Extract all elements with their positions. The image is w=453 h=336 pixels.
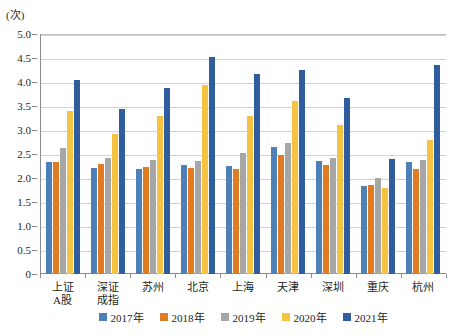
x-axis-tick-mark xyxy=(85,274,86,278)
y-axis-tick-label: 3.5 xyxy=(17,100,31,112)
bar xyxy=(368,185,374,274)
y-axis-tick-label: 0.5 xyxy=(17,244,31,256)
bar xyxy=(292,101,298,274)
y-axis-tick-label: 5.0 xyxy=(17,28,31,40)
x-axis-tick-mark xyxy=(356,274,357,278)
y-axis-tick-mark xyxy=(32,58,37,59)
legend-label: 2019年 xyxy=(233,309,266,325)
y-axis-tick-label: 1.5 xyxy=(17,196,31,208)
bar-groups xyxy=(40,34,446,274)
bar xyxy=(375,178,381,274)
bar-group xyxy=(401,34,446,274)
y-axis-tick-label: 4.0 xyxy=(17,76,31,88)
legend-item[interactable]: 2019年 xyxy=(221,309,266,325)
legend-item[interactable]: 2018年 xyxy=(160,309,205,325)
bar xyxy=(406,162,412,274)
x-axis-tick-mark xyxy=(266,274,267,278)
y-axis-tick-mark xyxy=(32,34,37,35)
legend-item[interactable]: 2020年 xyxy=(282,309,327,325)
bar xyxy=(60,148,66,274)
bar xyxy=(136,169,142,274)
x-axis-category-label-line: 重庆 xyxy=(356,281,401,294)
legend-item[interactable]: 2021年 xyxy=(343,309,388,325)
bar xyxy=(427,140,433,274)
x-axis-category-label-line: 苏州 xyxy=(130,281,175,294)
bar xyxy=(434,65,440,274)
bar-group xyxy=(130,34,175,274)
bar xyxy=(46,162,52,274)
bar xyxy=(67,111,73,274)
bar xyxy=(202,85,208,274)
x-axis-category-label-line: 杭州 xyxy=(401,281,446,294)
x-axis-category-label-line: 天津 xyxy=(266,281,311,294)
chart-legend: 2017年2018年2019年2020年2021年 xyxy=(40,308,446,326)
bar-group xyxy=(311,34,356,274)
bar xyxy=(195,161,201,274)
y-axis-tick-label: 2.5 xyxy=(17,148,31,160)
legend-label: 2020年 xyxy=(294,309,327,325)
y-axis-tick-mark xyxy=(32,130,37,131)
y-axis-tick-label: 0 xyxy=(26,268,32,280)
y-axis-tick-mark xyxy=(32,178,37,179)
bar xyxy=(164,88,170,274)
legend-label: 2021年 xyxy=(355,309,388,325)
y-axis-tick-mark xyxy=(32,274,37,275)
x-axis-tick-mark xyxy=(175,274,176,278)
bar-group xyxy=(40,34,85,274)
x-axis-tick-mark xyxy=(220,274,221,278)
legend-label: 2017年 xyxy=(111,309,144,325)
y-axis-tick-label: 2.0 xyxy=(17,172,31,184)
bar xyxy=(316,161,322,274)
bar xyxy=(330,158,336,274)
x-axis-category-label-line: 成指 xyxy=(85,294,130,307)
bar xyxy=(53,162,59,274)
bar xyxy=(382,188,388,274)
bar xyxy=(413,169,419,274)
x-axis-category-label-line: 深证 xyxy=(85,281,130,294)
bar xyxy=(74,80,80,274)
bar-group xyxy=(266,34,311,274)
bar xyxy=(112,134,118,274)
bar xyxy=(105,158,111,274)
bar xyxy=(344,98,350,274)
bar xyxy=(278,155,284,274)
bar xyxy=(143,167,149,274)
bar xyxy=(188,168,194,274)
bar xyxy=(181,165,187,274)
y-axis-tick-mark xyxy=(32,250,37,251)
bar-group xyxy=(220,34,265,274)
legend-swatch-icon xyxy=(99,313,107,321)
bar xyxy=(420,160,426,274)
bar xyxy=(233,169,239,274)
y-axis-tick-mark xyxy=(32,82,37,83)
legend-label: 2018年 xyxy=(172,309,205,325)
bar-chart: (次) 5.04.54.03.53.02.52.01.51.00.50 上证A股… xyxy=(0,0,453,336)
bar-group xyxy=(356,34,401,274)
bar xyxy=(150,160,156,274)
x-axis-category-label-line: A股 xyxy=(40,294,85,307)
x-axis-tick-mark xyxy=(401,274,402,278)
bar xyxy=(389,159,395,274)
bar xyxy=(157,116,163,274)
x-axis-category-label-line: 深圳 xyxy=(311,281,356,294)
x-axis-category-label-line: 上海 xyxy=(220,281,265,294)
legend-item[interactable]: 2017年 xyxy=(99,309,144,325)
bar xyxy=(240,153,246,274)
y-axis-tick-label: 4.5 xyxy=(17,52,31,64)
legend-swatch-icon xyxy=(221,313,229,321)
bar xyxy=(119,109,125,274)
y-axis-tick-label: 3.0 xyxy=(17,124,31,136)
x-axis-tick-mark xyxy=(130,274,131,278)
bar xyxy=(254,74,260,274)
y-axis-tick-mark xyxy=(32,202,37,203)
legend-swatch-icon xyxy=(282,313,290,321)
bar xyxy=(285,143,291,274)
bar xyxy=(226,166,232,274)
bar xyxy=(98,164,104,274)
y-axis-tick-mark xyxy=(32,226,37,227)
bar-group xyxy=(85,34,130,274)
y-axis-tick-mark xyxy=(32,154,37,155)
x-axis-category-label-line: 上证 xyxy=(40,281,85,294)
y-axis-tick-label: 1.0 xyxy=(17,220,31,232)
bar xyxy=(361,186,367,274)
